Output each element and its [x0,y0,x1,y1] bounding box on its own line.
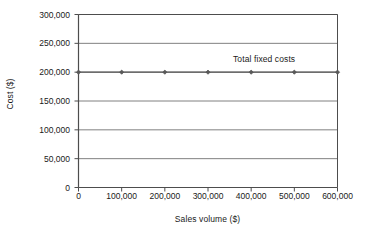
data-point-marker [292,70,296,74]
data-point-marker [206,70,210,74]
plot-area [0,0,365,238]
data-point-marker [76,70,80,74]
data-point-marker [249,70,253,74]
data-point-marker [120,70,124,74]
series-annotation-total-fixed-costs: Total fixed costs [233,55,295,64]
fixed-cost-line-chart: Cost ($) 050,000100,000150,000200,000250… [0,0,365,238]
data-point-marker [335,70,339,74]
x-axis-title: Sales volume ($) [78,214,337,224]
x-axis-title-label: Sales volume ($) [175,214,240,224]
data-point-marker [163,70,167,74]
